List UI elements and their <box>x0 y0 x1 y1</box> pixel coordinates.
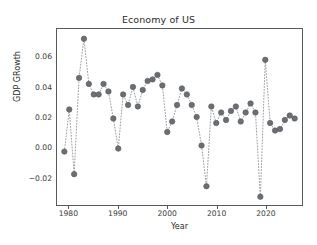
x-tick-label: 2020 <box>256 209 275 218</box>
data-point <box>179 86 184 91</box>
data-point <box>214 120 219 125</box>
data-point <box>135 104 140 109</box>
x-tick-mark <box>266 206 267 209</box>
data-point <box>106 89 111 94</box>
data-point <box>248 101 253 106</box>
data-point <box>184 92 189 97</box>
data-point <box>150 77 155 82</box>
data-point <box>258 194 263 199</box>
data-point <box>155 72 160 77</box>
x-axis-label: Year <box>56 222 303 231</box>
data-point <box>253 110 258 115</box>
data-point <box>204 183 209 188</box>
data-point <box>282 117 287 122</box>
x-tick-mark <box>217 206 218 209</box>
data-point <box>209 104 214 109</box>
x-tick-label: 1990 <box>108 209 127 218</box>
data-point <box>96 92 101 97</box>
data-point <box>263 57 268 62</box>
data-point <box>160 83 165 88</box>
data-point <box>189 102 194 107</box>
data-point <box>120 92 125 97</box>
x-tick-label: 2010 <box>207 209 226 218</box>
data-point <box>86 81 91 86</box>
data-point <box>243 110 248 115</box>
y-axis-tick-labels: −0.020.000.020.040.06 <box>22 0 52 245</box>
data-point <box>165 129 170 134</box>
data-point <box>169 119 174 124</box>
data-point <box>81 36 86 41</box>
data-point <box>76 75 81 80</box>
data-point <box>223 117 228 122</box>
data-point <box>125 102 130 107</box>
x-tick-label: 2000 <box>157 209 176 218</box>
chart-figure: Economy of US GDP GRowth −0.020.000.020.… <box>0 0 317 245</box>
data-point <box>277 126 282 131</box>
y-tick-label: 0.06 <box>35 52 52 61</box>
x-tick-label: 1980 <box>59 209 78 218</box>
data-point <box>174 102 179 107</box>
data-point <box>199 143 204 148</box>
data-point <box>194 114 199 119</box>
plot-area <box>56 28 303 206</box>
x-tick-mark <box>118 206 119 209</box>
x-tick-mark <box>68 206 69 209</box>
y-tick-label: −0.02 <box>29 173 52 182</box>
data-point <box>62 149 67 154</box>
gdp-growth-series <box>57 29 302 205</box>
series-line <box>64 39 294 197</box>
data-point <box>267 120 272 125</box>
data-point <box>101 81 106 86</box>
y-tick-label: 0.00 <box>35 143 52 152</box>
y-tick-label: 0.02 <box>35 113 52 122</box>
data-point <box>67 107 72 112</box>
y-axis-label: GDP GRowth <box>13 22 22 132</box>
data-point <box>238 119 243 124</box>
data-point <box>233 104 238 109</box>
data-point <box>111 116 116 121</box>
data-point <box>71 171 76 176</box>
data-point <box>287 113 292 118</box>
data-point <box>116 146 121 151</box>
data-point <box>130 84 135 89</box>
data-point <box>218 110 223 115</box>
data-point <box>140 87 145 92</box>
data-point <box>228 108 233 113</box>
data-point <box>292 116 297 121</box>
y-tick-label: 0.04 <box>35 82 52 91</box>
x-tick-mark <box>167 206 168 209</box>
